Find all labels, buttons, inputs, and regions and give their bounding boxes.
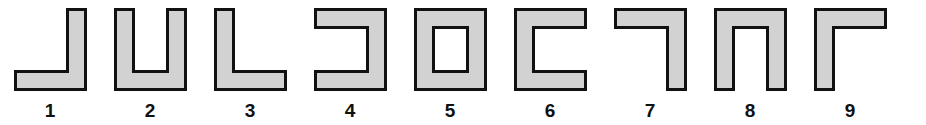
l-shape — [214, 8, 287, 91]
shape-label-6: 6 — [545, 101, 556, 120]
j-shape-path — [15, 10, 85, 90]
square-frame-shape-path — [415, 10, 485, 90]
shape-cell-9 — [800, 0, 900, 98]
shape-cell-6 — [500, 0, 600, 98]
square-frame-shape — [414, 8, 487, 91]
shape-label-cell-2: 2 — [100, 96, 200, 125]
inverted-u-shape — [714, 8, 787, 91]
bracket-open-right-shape — [514, 8, 587, 91]
shape-figure: 123456789 — [0, 0, 926, 125]
shape-label-cell-3: 3 — [200, 96, 300, 125]
mirrored-l-shape — [614, 8, 687, 91]
shape-label-2: 2 — [145, 101, 156, 120]
shape-cell-8 — [700, 0, 800, 98]
label-row: 123456789 — [0, 96, 926, 125]
bracket-open-right-shape-path — [515, 10, 585, 90]
j-shape — [14, 8, 87, 91]
shape-label-7: 7 — [645, 101, 656, 120]
shape-row — [0, 0, 926, 98]
shape-label-cell-4: 4 — [300, 96, 400, 125]
l-shape-path — [215, 10, 285, 90]
shape-label-4: 4 — [345, 101, 356, 120]
shape-label-9: 9 — [845, 101, 856, 120]
shape-label-3: 3 — [245, 101, 256, 120]
bracket-open-left-shape-path — [315, 10, 385, 90]
shape-label-cell-8: 8 — [700, 96, 800, 125]
shape-label-cell-6: 6 — [500, 96, 600, 125]
gamma-shape-path — [815, 10, 885, 90]
shape-cell-1 — [0, 0, 100, 98]
u-shape — [114, 8, 187, 91]
bracket-open-left-shape — [314, 8, 387, 91]
mirrored-l-shape-path — [615, 10, 685, 90]
shape-label-cell-5: 5 — [400, 96, 500, 125]
shape-cell-7 — [600, 0, 700, 98]
shape-cell-4 — [300, 0, 400, 98]
shape-label-cell-1: 1 — [0, 96, 100, 125]
shape-label-8: 8 — [745, 101, 756, 120]
inverted-u-shape-path — [715, 10, 785, 90]
shape-cell-2 — [100, 0, 200, 98]
shape-label-1: 1 — [45, 101, 56, 120]
gamma-shape — [814, 8, 887, 91]
shape-label-cell-7: 7 — [600, 96, 700, 125]
shape-cell-3 — [200, 0, 300, 98]
u-shape-path — [115, 10, 185, 90]
shape-label-5: 5 — [445, 101, 456, 120]
shape-label-cell-9: 9 — [800, 96, 900, 125]
shape-cell-5 — [400, 0, 500, 98]
